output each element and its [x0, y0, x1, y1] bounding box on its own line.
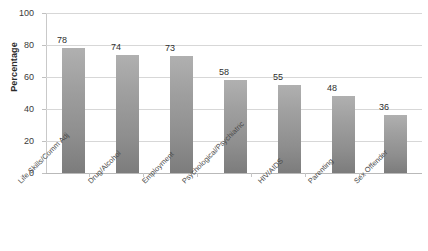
y-tick-label-20: 20	[0, 137, 34, 146]
bar-value-5: 48	[312, 84, 352, 93]
y-tick-label-80: 80	[0, 41, 34, 50]
bar-value-0: 78	[42, 36, 82, 45]
bar-0[interactable]	[62, 48, 85, 173]
y-tick-label-60: 60	[0, 73, 34, 82]
gridline-100	[46, 13, 422, 14]
bar-value-2: 73	[150, 44, 190, 53]
plot-area	[46, 13, 422, 173]
bar-value-3: 58	[204, 68, 244, 77]
x-tick-mark-4	[305, 173, 306, 177]
x-tick-mark-3	[251, 173, 252, 177]
bar-value-6: 36	[364, 103, 404, 112]
bar-value-1: 74	[96, 43, 136, 52]
bar-5[interactable]	[332, 96, 355, 173]
bar-6[interactable]	[384, 115, 407, 173]
y-axis-tick-labels: 100 80 60 40 20 0	[0, 0, 40, 251]
y-tick-label-100: 100	[0, 9, 34, 18]
bar-value-4: 55	[258, 73, 298, 82]
bar-chart: Percentage 100 80 60 40 20 0 78 74 73 58…	[0, 0, 428, 251]
y-tick-label-40: 40	[0, 105, 34, 114]
